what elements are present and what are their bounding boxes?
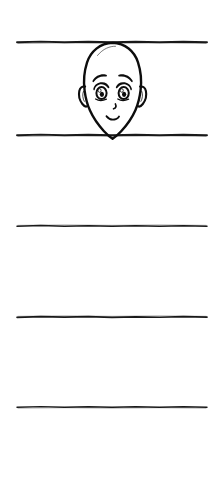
paper-background [0, 0, 222, 482]
guide-line-3 [17, 225, 207, 227]
sketch-surface [0, 0, 222, 482]
guide-line-4 [17, 316, 207, 318]
guide-line-2 [17, 135, 207, 137]
sketch-canvas: Face proportion guide sheet anime-style … [0, 0, 222, 482]
